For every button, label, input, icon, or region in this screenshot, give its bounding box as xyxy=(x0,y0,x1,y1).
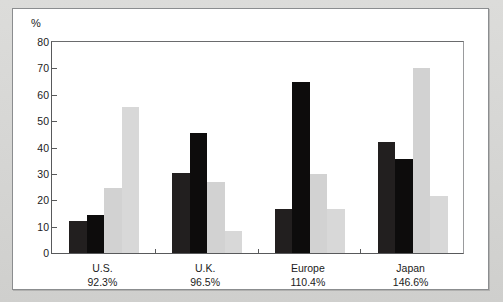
y-axis-tick-label: 50 xyxy=(27,116,49,127)
x-axis-category-us: U.S.92.3% xyxy=(51,261,154,289)
bar xyxy=(207,182,225,253)
y-axis-tick-label: 20 xyxy=(27,195,49,206)
y-axis-tick-mark xyxy=(52,253,57,254)
bar xyxy=(395,159,413,253)
bar xyxy=(225,231,243,253)
bar xyxy=(292,82,310,253)
y-axis-tick-label: 10 xyxy=(27,221,49,232)
bar-group-uk xyxy=(172,42,242,253)
bar xyxy=(378,142,396,253)
bar xyxy=(69,221,87,253)
x-axis-category-name: U.S. xyxy=(51,261,154,275)
x-axis-group-separator xyxy=(258,249,259,254)
x-axis-category-europe: Europe110.4% xyxy=(257,261,360,289)
bar xyxy=(87,215,105,253)
x-axis-category-uk: U.K.96.5% xyxy=(154,261,257,289)
bar-group-japan xyxy=(378,42,448,253)
y-axis-tick-label: 70 xyxy=(27,63,49,74)
page-background: % Banks Equity Loans and trade credits xyxy=(0,0,503,302)
x-axis-category-value: 96.5% xyxy=(154,275,257,289)
plot-area: 01020304050607080 xyxy=(51,41,464,254)
x-axis-category-value: 110.4% xyxy=(257,275,360,289)
x-axis-category-japan: Japan146.6% xyxy=(359,261,462,289)
bar xyxy=(430,196,448,253)
y-axis-tick-label: 0 xyxy=(27,248,49,259)
y-axis-tick-label: 40 xyxy=(27,142,49,153)
y-axis-tick-label: 80 xyxy=(27,37,49,48)
x-axis-group-separator xyxy=(155,249,156,254)
bar-group-europe xyxy=(275,42,345,253)
x-axis-category-value: 92.3% xyxy=(51,275,154,289)
y-axis-unit-label: % xyxy=(31,17,41,29)
bar xyxy=(104,188,122,253)
bar xyxy=(310,174,328,253)
x-axis-category-name: U.K. xyxy=(154,261,257,275)
bar-group-us xyxy=(69,42,139,253)
x-axis-category-name: Europe xyxy=(257,261,360,275)
bar xyxy=(122,107,140,253)
x-axis-group-separator xyxy=(360,249,361,254)
bar xyxy=(172,173,190,253)
bar-chart: % Banks Equity Loans and trade credits xyxy=(13,9,488,289)
y-axis-tick-label: 60 xyxy=(27,90,49,101)
bar xyxy=(413,68,431,253)
bar xyxy=(327,209,345,253)
x-axis-category-value: 146.6% xyxy=(359,275,462,289)
y-axis-tick-label: 30 xyxy=(27,169,49,180)
bar xyxy=(275,209,293,253)
x-axis-category-name: Japan xyxy=(359,261,462,275)
bars-area xyxy=(52,42,463,253)
bar xyxy=(190,133,208,253)
figure-frame: % Banks Equity Loans and trade credits xyxy=(12,8,489,290)
